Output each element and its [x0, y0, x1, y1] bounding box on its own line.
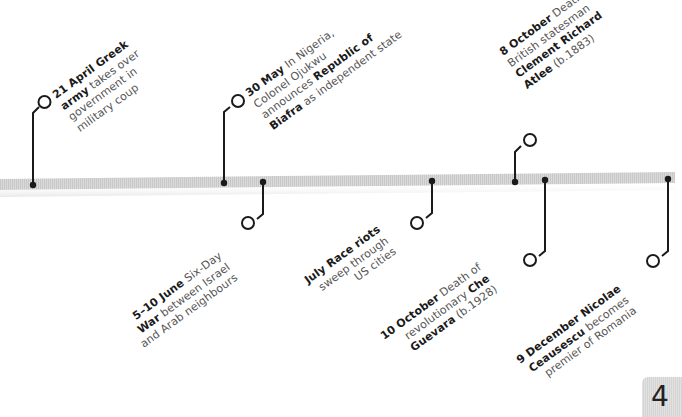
timeline-bar — [0, 172, 675, 197]
marker-21-april — [30, 96, 51, 188]
page-number: 4 — [651, 380, 669, 413]
marker-30-may — [221, 95, 244, 186]
